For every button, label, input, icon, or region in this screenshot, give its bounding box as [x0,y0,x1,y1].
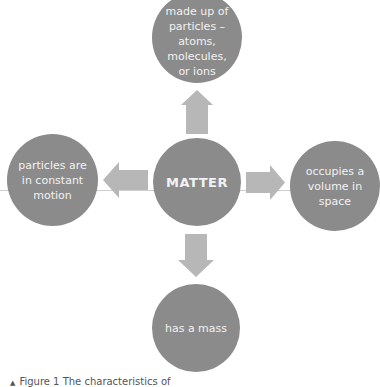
node-left-label: particles are in constant motion [15,158,90,203]
center-label: MATTER [166,175,228,190]
arrow-up-icon [181,90,213,134]
node-top-label: made up of particles – atoms, molecules,… [160,4,234,79]
center-circle: MATTER [153,138,241,226]
caption-marker-icon: ▲ [10,379,15,387]
arrow-left-icon [103,162,148,198]
figure-caption: ▲Figure 1 The characteristics of [10,376,171,387]
node-right-circle: occupies a volume in space [290,141,380,231]
node-bottom-label: has a mass [165,321,227,336]
node-right-label: occupies a volume in space [298,164,372,209]
node-left-circle: particles are in constant motion [7,134,98,226]
node-top-circle: made up of particles – atoms, molecules,… [152,0,242,83]
node-bottom-circle: has a mass [152,284,240,372]
arrow-right-icon [246,165,285,200]
caption-text: Figure 1 The characteristics of [19,376,170,387]
arrow-down-icon [178,234,214,277]
